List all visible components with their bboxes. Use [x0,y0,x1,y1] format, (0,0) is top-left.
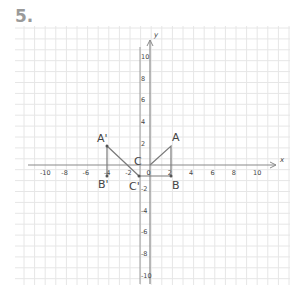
y-tick-label: -2 [141,185,147,193]
y-axis-label: y [153,31,159,39]
point-c-prime [138,175,141,178]
y-tick-label: -10 [141,272,152,280]
x-tick-label: -10 [40,169,51,177]
coordinate-plane: x y -10-8-6-4-20246810 108642-2-4-6-8-10… [0,0,297,285]
label-b-prime: B' [98,178,109,191]
label-b: B [172,179,180,192]
x-tick-label: 10 [253,169,261,177]
y-tick-label: -8 [141,250,147,258]
grid [15,26,290,285]
point-b [170,175,173,178]
triangle-abc [139,146,171,176]
y-tick-label: -4 [141,207,147,215]
y-tick-label: 8 [141,75,145,83]
x-tick-label: -8 [61,169,67,177]
y-tick-label: 2 [141,140,145,148]
y-tick-label: 4 [141,118,145,126]
x-tick-label: 8 [232,169,236,177]
y-tick-label: 6 [141,96,145,104]
x-tick-label: -2 [125,169,131,177]
x-tick-label: 6 [210,169,214,177]
y-tick-label: -6 [141,228,147,236]
label-c-prime: C' [129,180,140,193]
x-tick-label: 4 [189,169,193,177]
y-tick-label: 10 [141,53,149,61]
label-c: C [134,155,142,168]
label-a: A [172,131,180,144]
label-a-prime: A' [97,132,108,145]
x-tick-label: -6 [83,169,89,177]
x-axis-label: x [279,156,285,164]
